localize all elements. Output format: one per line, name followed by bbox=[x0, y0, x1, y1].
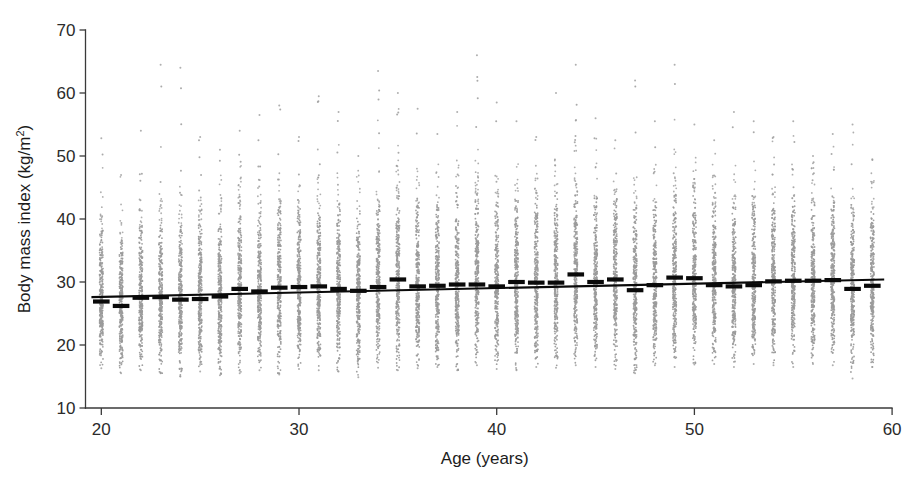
scatter-dot-layer bbox=[99, 54, 875, 379]
y-tick-label: 40 bbox=[57, 210, 76, 229]
y-tick-label: 70 bbox=[57, 21, 76, 40]
chart-canvas: 102030405060702030405060 Age (years)Body… bbox=[0, 0, 916, 479]
x-axis-title: Age (years) bbox=[441, 449, 529, 468]
group-mean-markers bbox=[93, 274, 881, 306]
y-tick-label: 30 bbox=[57, 273, 76, 292]
y-tick-label: 10 bbox=[57, 399, 76, 418]
x-tick-label: 60 bbox=[883, 420, 902, 439]
x-tick-label: 40 bbox=[487, 420, 506, 439]
y-tick-label: 50 bbox=[57, 147, 76, 166]
y-tick-label: 60 bbox=[57, 84, 76, 103]
axis-labels-layer: Age (years)Body mass index (kg/m2) bbox=[14, 125, 529, 468]
x-tick-label: 50 bbox=[685, 420, 704, 439]
x-tick-label: 20 bbox=[92, 420, 111, 439]
y-axis-title: Body mass index (kg/m2) bbox=[14, 125, 34, 313]
y-tick-label: 20 bbox=[57, 336, 76, 355]
bmi-age-scatter-figure: 102030405060702030405060 Age (years)Body… bbox=[0, 0, 916, 479]
x-tick-label: 30 bbox=[290, 420, 309, 439]
